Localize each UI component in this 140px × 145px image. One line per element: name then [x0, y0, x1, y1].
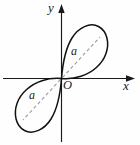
- lemniscate-figure: y x O a a: [0, 0, 140, 145]
- origin-label: O: [63, 79, 72, 92]
- y-axis-label: y: [48, 1, 54, 14]
- upper-loop-a-label: a: [71, 45, 77, 57]
- x-axis-label: x: [123, 79, 129, 92]
- lower-loop-a-label: a: [29, 89, 35, 101]
- figure-canvas: [0, 0, 140, 145]
- y-axis-arrowhead: [58, 4, 64, 13]
- dashed-axis-upper-loop: [63, 37, 101, 78]
